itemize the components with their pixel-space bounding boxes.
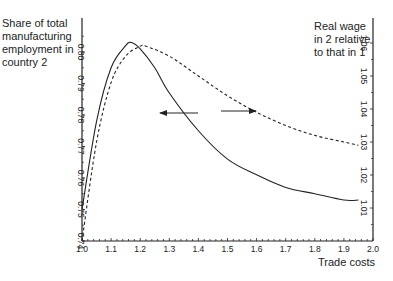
x-tick-label: 1.6 [251, 244, 263, 254]
x-tick-label: 1.8 [309, 244, 321, 254]
x-tick-label: 1.9 [338, 244, 350, 254]
real-wage-line [82, 45, 358, 241]
left-tick-label: 0.74 [76, 233, 86, 250]
employment-share-line [82, 42, 358, 209]
right-tick-label: 1.05 [359, 68, 369, 85]
x-tick-label: 1.7 [280, 244, 292, 254]
left-tick-label: 0.77 [76, 138, 86, 155]
x-tick-label: 2.0 [367, 244, 379, 254]
x-tick-label: 1.4 [192, 244, 204, 254]
right-tick-label: 1.02 [359, 167, 369, 184]
x-tick-label: 1.1 [105, 244, 117, 254]
right-tick-label: 1.01 [359, 200, 369, 217]
left-tick-label: 0.79 [76, 75, 86, 92]
x-tick-label: 1.5 [222, 244, 234, 254]
left-tick-label: 0.75 [76, 201, 86, 218]
chart-plot: 1.01.11.21.31.41.51.61.71.81.92.00.740.7… [0, 0, 393, 281]
annotation-arrows [160, 111, 256, 113]
right-tick-label: 1.04 [359, 101, 369, 118]
axes [82, 18, 373, 241]
ticks: 1.01.11.21.31.41.51.61.71.81.92.00.740.7… [76, 35, 379, 254]
x-tick-label: 1.2 [134, 244, 146, 254]
right-tick-label: 1.03 [359, 134, 369, 151]
right-tick-label: 1.06 [359, 35, 369, 52]
left-tick-label: 0.76 [76, 170, 86, 187]
left-tick-label: 0.80 [76, 44, 86, 61]
series-lines [82, 42, 358, 241]
x-tick-label: 1.3 [163, 244, 175, 254]
left-tick-label: 0.78 [76, 107, 86, 124]
